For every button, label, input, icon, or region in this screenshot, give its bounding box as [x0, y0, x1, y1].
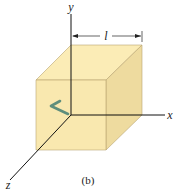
dimension-l: l [72, 29, 142, 43]
cube-axes-diagram: l y x z (b) [0, 0, 179, 193]
arrowhead-right-icon [135, 34, 141, 38]
z-axis-label: z [5, 178, 11, 192]
x-axis-label: x [166, 108, 173, 122]
y-axis-label: y [67, 0, 74, 14]
dimension-label: l [104, 29, 108, 43]
arrowhead-left-icon [72, 34, 78, 38]
figure-caption: (b) [82, 174, 95, 187]
